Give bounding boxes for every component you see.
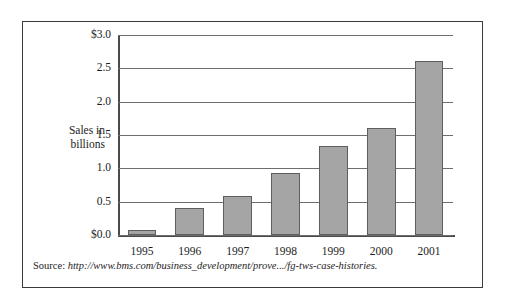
figure-frame: Sales in billions $0.00.51.01.52.02.5$3.…	[22, 21, 483, 288]
y-tick-label: 1.0	[97, 163, 111, 175]
plot-area: $0.00.51.01.52.02.5$3.0 1995199619971998…	[118, 35, 453, 235]
gridline	[118, 35, 453, 36]
gridline	[118, 168, 453, 169]
gridline	[118, 102, 453, 103]
gridline	[118, 135, 453, 136]
y-tick-label: 2.0	[97, 96, 111, 108]
bar	[223, 196, 252, 235]
bar	[367, 128, 396, 235]
bar	[175, 208, 204, 235]
y-tick-label: 1.5	[97, 129, 111, 141]
gridline	[118, 235, 453, 236]
x-tick-label: 1997	[226, 245, 249, 257]
source-url: http://www.bms.com/business_development/…	[68, 260, 378, 271]
source-label: Source:	[33, 260, 65, 271]
x-tick-label: 1998	[274, 245, 297, 257]
x-tick-label: 1996	[178, 245, 201, 257]
y-tick-label: 2.5	[97, 63, 111, 75]
y-tick-label: $3.0	[91, 29, 111, 41]
source-note: Source: http://www.bms.com/business_deve…	[33, 260, 377, 271]
x-tick-label: 2001	[418, 245, 441, 257]
gridline	[118, 68, 453, 69]
y-tick-label: 0.5	[97, 196, 111, 208]
y-axis-title: Sales in billions	[29, 123, 105, 152]
y-axis-title-line-1: Sales in	[29, 123, 105, 137]
bar	[271, 173, 300, 235]
bar	[319, 146, 348, 235]
bar	[128, 230, 157, 235]
x-tick-label: 1995	[130, 245, 153, 257]
x-tick-label: 2000	[370, 245, 393, 257]
x-tick-label: 1999	[322, 245, 345, 257]
bar	[415, 61, 444, 235]
y-axis-title-line-2: billions	[29, 137, 105, 151]
y-tick-label: $0.0	[91, 229, 111, 241]
